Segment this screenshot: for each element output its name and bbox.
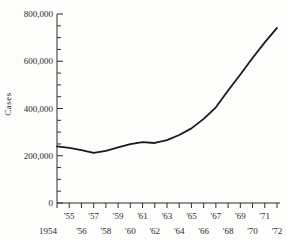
x-axis-tick-label: 1954 bbox=[39, 226, 58, 236]
x-axis-tick-label: '64 bbox=[174, 226, 185, 236]
x-axis-tick-label: '58 bbox=[101, 226, 112, 236]
x-axis-tick-label: '61 bbox=[137, 211, 148, 221]
x-axis-tick-label: '63 bbox=[162, 211, 173, 221]
x-axis-tick-label: '72 bbox=[272, 226, 283, 236]
x-axis-tick-label: '66 bbox=[198, 226, 209, 236]
y-axis-tick-label: 200,000 bbox=[24, 151, 54, 161]
x-axis-tick-label: '65 bbox=[186, 211, 197, 221]
x-axis-tick-label: '57 bbox=[88, 211, 99, 221]
y-axis-title: Cases bbox=[3, 92, 13, 116]
x-axis-tick-label: '67 bbox=[211, 211, 222, 221]
x-axis-tick-label: '59 bbox=[113, 211, 124, 221]
x-axis-tick-label: '68 bbox=[223, 226, 234, 236]
x-axis-tick-label: '62 bbox=[149, 226, 160, 236]
chart-plot-area: 0200,000400,000600,000800,000'55'57'59'6… bbox=[24, 9, 283, 236]
x-axis-tick-label: '71 bbox=[259, 211, 270, 221]
x-axis-tick-label: '56 bbox=[76, 226, 87, 236]
y-axis-tick-label: 600,000 bbox=[24, 56, 54, 66]
data-line bbox=[57, 28, 277, 153]
y-axis-tick-label: 800,000 bbox=[24, 9, 54, 19]
y-axis-tick-label: 400,000 bbox=[24, 104, 54, 114]
x-axis-tick-label: '55 bbox=[64, 211, 75, 221]
cases-line-chart: Cases 0200,000400,000600,000800,000'55'5… bbox=[0, 0, 286, 241]
x-axis-tick-label: '70 bbox=[247, 226, 258, 236]
x-axis-tick-label: '69 bbox=[235, 211, 246, 221]
y-axis-tick-label: 0 bbox=[49, 198, 54, 208]
x-axis-tick-label: '60 bbox=[125, 226, 136, 236]
chart-figure: Cases 0200,000400,000600,000800,000'55'5… bbox=[0, 0, 286, 241]
